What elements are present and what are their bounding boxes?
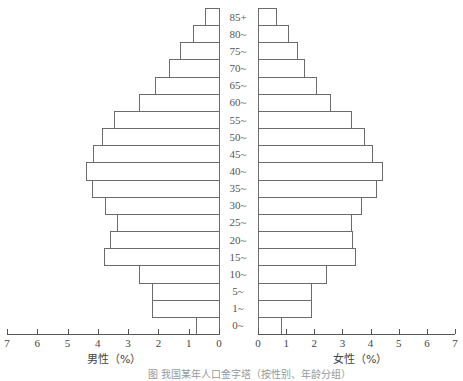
age-group-label: 1~ [218, 302, 258, 314]
male-axis-tick [128, 329, 129, 334]
male-axis-tick [219, 329, 220, 334]
male-bar [110, 231, 220, 249]
age-group-label: 80~ [218, 28, 258, 40]
female-axis-tick-label: 4 [363, 337, 379, 349]
female-axis-tick [258, 329, 259, 334]
age-group-label: 70~ [218, 62, 258, 74]
female-axis-title: 女性（%） [333, 350, 387, 366]
chart-caption: 图 我国某年人口金字塔（按性别、年龄分组） [148, 366, 351, 381]
age-group-label: 40~ [218, 165, 258, 177]
male-axis-tick-label: 2 [150, 337, 166, 349]
male-bar [155, 77, 220, 95]
age-group-label: 85+ [218, 11, 258, 23]
male-bar [152, 300, 220, 318]
male-axis-tick [7, 329, 8, 334]
male-bar [193, 25, 220, 43]
female-bar [258, 197, 362, 215]
male-bar [92, 180, 220, 198]
male-axis-tick [189, 329, 190, 334]
female-bar [258, 111, 352, 129]
female-axis-tick [371, 329, 372, 334]
female-axis-tick-label: 6 [419, 337, 435, 349]
female-axis-tick-label: 5 [391, 337, 407, 349]
age-group-label: 15~ [218, 251, 258, 263]
age-group-label: 65~ [218, 79, 258, 91]
male-bar [102, 128, 220, 146]
age-group-label: 35~ [218, 182, 258, 194]
male-bar [117, 214, 220, 232]
age-group-label: 45~ [218, 148, 258, 160]
female-axis-tick [286, 329, 287, 334]
female-axis-tick-label: 3 [334, 337, 350, 349]
female-axis-tick [455, 329, 456, 334]
male-bar [104, 248, 220, 266]
male-axis-tick-label: 5 [60, 337, 76, 349]
female-bar [258, 128, 365, 146]
male-axis-tick-label: 3 [120, 337, 136, 349]
female-bar [258, 283, 312, 301]
male-axis-tick-label: 7 [0, 337, 15, 349]
male-bar [105, 197, 220, 215]
age-group-label: 10~ [218, 268, 258, 280]
female-bar [258, 248, 356, 266]
male-bar [139, 94, 220, 112]
female-axis-tick-label: 0 [250, 337, 266, 349]
female-bar [258, 300, 312, 318]
male-axis-tick [37, 329, 38, 334]
female-bar [258, 77, 317, 95]
age-group-label: 30~ [218, 199, 258, 211]
male-axis-tick [158, 329, 159, 334]
male-bar [196, 317, 220, 335]
female-bar [258, 94, 331, 112]
female-x-axis [258, 334, 455, 335]
female-bar [258, 145, 373, 163]
male-bar [139, 265, 220, 283]
male-bar [93, 145, 220, 163]
female-axis-tick-label: 7 [447, 337, 463, 349]
female-bar [258, 162, 383, 180]
male-axis-tick-label: 6 [29, 337, 45, 349]
male-bar [86, 162, 220, 180]
age-group-label: 60~ [218, 96, 258, 108]
male-x-axis [7, 334, 219, 335]
age-group-label: 20~ [218, 234, 258, 246]
age-group-label: 75~ [218, 45, 258, 57]
male-bar [152, 283, 220, 301]
male-bar [180, 42, 220, 60]
male-bar [114, 111, 220, 129]
age-group-label: 0~ [218, 319, 258, 331]
female-axis-tick [314, 329, 315, 334]
female-axis-tick-label: 2 [306, 337, 322, 349]
male-bar [169, 59, 220, 77]
female-bar [258, 214, 352, 232]
female-axis-tick-label: 1 [278, 337, 294, 349]
male-axis-tick-label: 1 [181, 337, 197, 349]
female-bar [258, 180, 377, 198]
female-axis-tick [399, 329, 400, 334]
female-bar [258, 8, 277, 26]
female-bar [258, 42, 298, 60]
age-group-label: 50~ [218, 131, 258, 143]
age-group-label: 25~ [218, 216, 258, 228]
female-bar [258, 231, 353, 249]
male-axis-tick [68, 329, 69, 334]
male-axis-tick-label: 0 [211, 337, 227, 349]
male-axis-tick-label: 4 [90, 337, 106, 349]
age-group-label: 55~ [218, 114, 258, 126]
female-bar [258, 265, 327, 283]
male-axis-tick [98, 329, 99, 334]
female-bar [258, 59, 305, 77]
female-axis-tick [427, 329, 428, 334]
female-bar [258, 25, 289, 43]
male-axis-title: 男性（%） [87, 350, 141, 366]
female-bar [258, 317, 282, 335]
age-group-label: 5~ [218, 285, 258, 297]
female-axis-tick [342, 329, 343, 334]
